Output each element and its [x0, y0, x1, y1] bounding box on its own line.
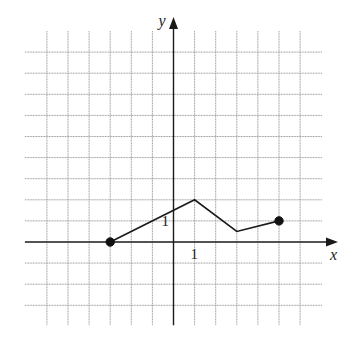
x-tick-label: 1: [191, 246, 199, 262]
x-axis-label: x: [329, 246, 337, 263]
axes: x y 1 1: [25, 12, 338, 325]
y-axis-label: y: [157, 12, 167, 30]
graph-figure: x y 1 1: [0, 0, 356, 341]
endpoint-dot: [106, 238, 114, 246]
y-axis-arrow-icon: [169, 17, 178, 29]
endpoint-dot: [275, 217, 283, 225]
